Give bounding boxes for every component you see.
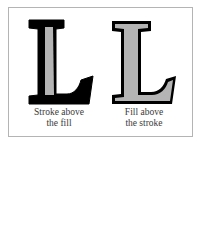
- caption-line: Stroke above: [22, 107, 96, 118]
- caption-line: Fill above: [106, 107, 182, 118]
- caption-line: the stroke: [106, 118, 182, 129]
- caption-stroke-above-fill: Stroke above the fill: [22, 107, 96, 129]
- caption-line: the fill: [22, 118, 96, 129]
- caption-fill-above-stroke: Fill above the stroke: [106, 107, 182, 129]
